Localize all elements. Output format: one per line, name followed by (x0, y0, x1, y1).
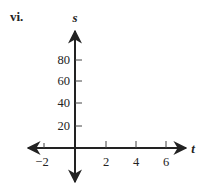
x-tick-label: 4 (133, 155, 140, 169)
x-tick-label: 2 (103, 155, 109, 169)
y-tick-label: 40 (58, 96, 71, 110)
x-tick-label: −2 (35, 155, 48, 169)
y-tick-label: 60 (58, 74, 71, 88)
y-tick-label: 20 (58, 119, 71, 133)
chart-canvas: vi. t s −2 2 4 6 20 40 60 80 (0, 0, 205, 193)
panel-label: vi. (10, 9, 23, 24)
x-ticks: −2 2 4 6 (35, 141, 169, 169)
x-tick-label: 6 (163, 155, 169, 169)
x-axis-label: t (191, 141, 195, 156)
y-axis-label: s (71, 10, 77, 25)
y-tick-label: 80 (58, 53, 71, 67)
y-ticks: 20 40 60 80 (58, 53, 83, 133)
